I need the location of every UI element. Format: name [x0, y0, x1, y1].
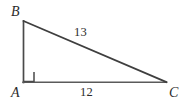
- right-angle-marker-icon: [24, 72, 34, 82]
- right-triangle-figure: B A C 13 12: [0, 0, 186, 107]
- triangle-side-bc: [24, 21, 167, 82]
- vertex-label-b: B: [11, 5, 20, 19]
- side-length-label-hypotenuse: 13: [74, 26, 87, 39]
- side-length-label-base: 12: [80, 86, 93, 99]
- vertex-label-c: C: [169, 86, 179, 100]
- vertex-label-a: A: [11, 86, 20, 100]
